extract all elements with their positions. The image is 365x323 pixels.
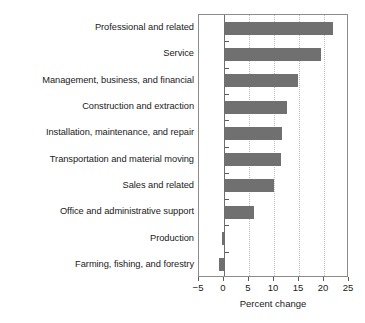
- bar: [225, 153, 281, 166]
- x-axis: −50510152025: [198, 277, 348, 299]
- x-tick-label: 20: [318, 282, 329, 293]
- bar: [225, 206, 254, 219]
- x-tick-label: 0: [220, 282, 225, 293]
- bar: [225, 48, 321, 61]
- x-tick: [348, 277, 349, 281]
- bar: [225, 74, 298, 87]
- x-tick-label: 10: [268, 282, 279, 293]
- category-tick: [225, 147, 229, 148]
- bar: [225, 179, 274, 192]
- plot-area: [198, 14, 348, 277]
- x-tick: [273, 277, 274, 281]
- x-tick: [323, 277, 324, 281]
- x-tick: [198, 277, 199, 281]
- bar: [222, 232, 224, 245]
- gridline: [324, 15, 325, 276]
- category-tick: [225, 252, 229, 253]
- x-tick-label: 5: [245, 282, 250, 293]
- category-tick: [225, 120, 229, 121]
- bar: [219, 258, 225, 271]
- category-label: Professional and related: [0, 22, 194, 32]
- category-label: Construction and extraction: [0, 101, 194, 111]
- category-label: Service: [0, 48, 194, 58]
- category-tick: [225, 68, 229, 69]
- category-label: Sales and related: [0, 180, 194, 190]
- category-label: Office and administrative support: [0, 206, 194, 216]
- category-tick: [225, 94, 229, 95]
- x-tick-label: 15: [293, 282, 304, 293]
- category-tick: [225, 173, 229, 174]
- x-tick: [248, 277, 249, 281]
- category-label: Management, business, and financial: [0, 75, 194, 85]
- category-label: Transportation and material moving: [0, 154, 194, 164]
- category-tick: [225, 41, 229, 42]
- category-label: Installation, maintenance, and repair: [0, 127, 194, 137]
- x-tick: [298, 277, 299, 281]
- bar-chart: Professional and relatedServiceManagemen…: [0, 0, 365, 323]
- category-label: Farming, fishing, and forestry: [0, 259, 194, 269]
- bar: [225, 22, 333, 35]
- category-axis: Professional and relatedServiceManagemen…: [0, 14, 194, 277]
- category-tick: [225, 225, 229, 226]
- category-tick: [225, 199, 229, 200]
- x-tick: [223, 277, 224, 281]
- plot-inner: [199, 15, 347, 276]
- bar: [225, 101, 287, 114]
- category-label: Production: [0, 233, 194, 243]
- x-tick-label: −5: [193, 282, 204, 293]
- x-axis-title: Percent change: [198, 298, 348, 310]
- x-tick-label: 25: [343, 282, 354, 293]
- bar: [225, 127, 282, 140]
